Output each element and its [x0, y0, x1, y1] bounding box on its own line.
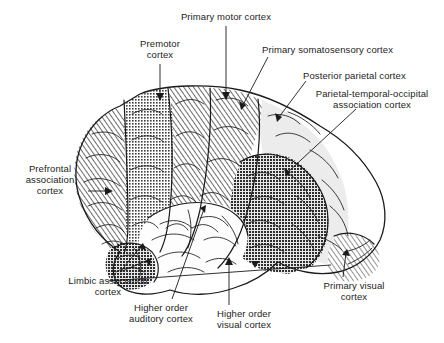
label-higher-order-visual-cortex: Higher order visual cortex [201, 308, 287, 330]
label-prefrontal-association-cortex: Prefrontal association cortex [12, 163, 88, 197]
label-primary-somatosensory-cortex: Primary somatosensory cortex [262, 44, 434, 55]
label-primary-motor-cortex: Primary motor cortex [165, 11, 287, 22]
brain-diagram-figure: Primary motor cortexPremotor cortexPrima… [0, 0, 444, 343]
label-higher-order-auditory-cortex: Higher order auditory cortex [115, 302, 207, 324]
label-premotor-cortex: Premotor cortex [120, 38, 200, 60]
label-limbic-association-cortex: Limbic association cortex [52, 275, 164, 297]
label-primary-visual-cortex: Primary visual cortex [308, 280, 400, 302]
label-parietal-temporal-occipital-association-cortex: Parietal-temporal-occipital association … [300, 88, 444, 110]
label-posterior-parietal-cortex: Posterior parietal cortex [303, 70, 441, 81]
